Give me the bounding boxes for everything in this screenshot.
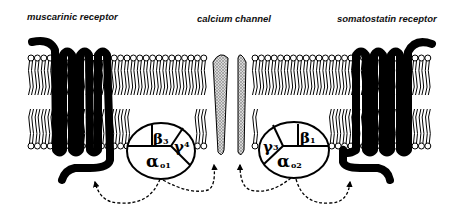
somatostatin-receptor-label: somatostatin receptor bbox=[337, 13, 438, 24]
lipid-head bbox=[425, 55, 431, 61]
muscarinic-receptor-label: muscarinic receptor bbox=[27, 11, 119, 22]
lipid-head bbox=[252, 143, 258, 149]
beta3-symbol: β bbox=[153, 130, 163, 148]
lipid-tail bbox=[202, 109, 207, 143]
lipid-tail bbox=[330, 109, 335, 143]
lipid-tail bbox=[272, 61, 277, 95]
lipid-head bbox=[194, 55, 200, 61]
calcium-channel-label: calcium channel bbox=[197, 13, 271, 24]
lipid-tail bbox=[125, 61, 130, 95]
lipid-tail bbox=[189, 61, 194, 95]
arrow-right-g-to-somatostatin bbox=[296, 179, 350, 203]
lipid-tail bbox=[342, 61, 347, 95]
lipid-head bbox=[182, 55, 188, 61]
lipid-head bbox=[150, 55, 156, 61]
muscarinic-receptor bbox=[32, 41, 110, 180]
lipid-tail bbox=[323, 61, 328, 95]
alpha-o2-subscript: o2 bbox=[291, 160, 302, 170]
lipid-head bbox=[418, 55, 424, 61]
lipid-tail bbox=[144, 61, 149, 95]
lipid-head bbox=[290, 55, 296, 61]
lipid-head bbox=[118, 143, 124, 149]
lipid-head bbox=[342, 55, 348, 61]
beta1-subscript: 1 bbox=[310, 135, 316, 145]
lipid-tail bbox=[297, 61, 302, 95]
lipid-head bbox=[335, 55, 341, 61]
lipid-head bbox=[252, 55, 258, 61]
lipid-head bbox=[130, 55, 136, 61]
lipid-head bbox=[265, 55, 271, 61]
lipid-tail bbox=[413, 61, 418, 95]
lipid-tail bbox=[329, 61, 334, 95]
lipid-tail bbox=[169, 61, 174, 95]
lipid-tail bbox=[118, 109, 123, 143]
lipid-head bbox=[34, 143, 40, 149]
lipid-head bbox=[137, 55, 143, 61]
gamma3-symbol: γ bbox=[263, 138, 273, 156]
lipid-tail bbox=[259, 61, 264, 95]
lipid-head bbox=[322, 55, 328, 61]
lipid-tail bbox=[304, 61, 309, 95]
lipid-head bbox=[412, 55, 418, 61]
lipid-head bbox=[278, 55, 284, 61]
calcium-channel-right-subunit bbox=[238, 55, 246, 155]
beta1-symbol: β bbox=[300, 129, 310, 147]
lipid-tail bbox=[253, 109, 258, 143]
alpha-o1-subscript: o1 bbox=[160, 160, 171, 170]
lipid-head bbox=[41, 143, 47, 149]
lipid-tail bbox=[42, 109, 47, 143]
lipid-head bbox=[329, 55, 335, 61]
lipid-tail bbox=[41, 61, 46, 95]
lipid-head bbox=[418, 143, 424, 149]
lipid-head bbox=[297, 55, 303, 61]
lipid-head bbox=[271, 55, 277, 61]
lipid-tail bbox=[163, 61, 168, 95]
lipid-head bbox=[284, 55, 290, 61]
lipid-tail bbox=[131, 61, 136, 95]
lipid-head bbox=[143, 55, 149, 61]
lipid-tail bbox=[291, 61, 296, 95]
lipid-tail bbox=[182, 61, 187, 95]
lipid-tail bbox=[112, 61, 117, 95]
lipid-head bbox=[425, 143, 431, 149]
lipid-tail bbox=[195, 61, 200, 95]
lipid-head bbox=[28, 143, 34, 149]
lipid-tail bbox=[426, 109, 431, 143]
somatostatin-receptor bbox=[343, 42, 432, 180]
lipid-head bbox=[156, 55, 162, 61]
lipid-head bbox=[111, 55, 117, 61]
membrane-diagram: muscarinic receptor calcium channel soma… bbox=[0, 0, 457, 217]
gamma4-symbol: γ bbox=[174, 138, 184, 156]
lipid-tail bbox=[278, 61, 283, 95]
lipid-head bbox=[303, 55, 309, 61]
lipid-head bbox=[41, 55, 47, 61]
lipid-tail bbox=[317, 61, 322, 95]
lipid-tail bbox=[29, 61, 34, 95]
lipid-tail bbox=[425, 61, 430, 95]
lipid-tail bbox=[125, 109, 130, 143]
g-protein-left: β 3 γ 4 α o1 bbox=[127, 123, 195, 179]
lipid-head bbox=[118, 55, 124, 61]
lipid-tail bbox=[176, 61, 181, 95]
lipid-head bbox=[28, 55, 34, 61]
lipid-tail bbox=[336, 109, 341, 143]
lipid-tail bbox=[35, 109, 40, 143]
lipid-tail bbox=[285, 61, 290, 95]
lipid-tail bbox=[342, 109, 347, 143]
lipid-tail bbox=[265, 61, 270, 95]
lipid-head bbox=[169, 55, 175, 61]
lipid-tail bbox=[336, 61, 341, 95]
lipid-tail bbox=[413, 109, 418, 143]
lipid-tail bbox=[310, 61, 315, 95]
lipid-tail bbox=[35, 61, 40, 95]
lipid-tail bbox=[201, 61, 206, 95]
lipid-tail bbox=[253, 61, 258, 95]
lipid-head bbox=[258, 55, 264, 61]
lipid-head bbox=[412, 143, 418, 149]
lipid-tail bbox=[419, 61, 424, 95]
lipid-head bbox=[124, 55, 130, 61]
alpha-o2-symbol: α bbox=[277, 151, 290, 171]
arrow-left-g-to-muscarinic bbox=[95, 179, 160, 203]
lipid-head bbox=[34, 55, 40, 61]
alpha-o1-symbol: α bbox=[146, 151, 159, 171]
